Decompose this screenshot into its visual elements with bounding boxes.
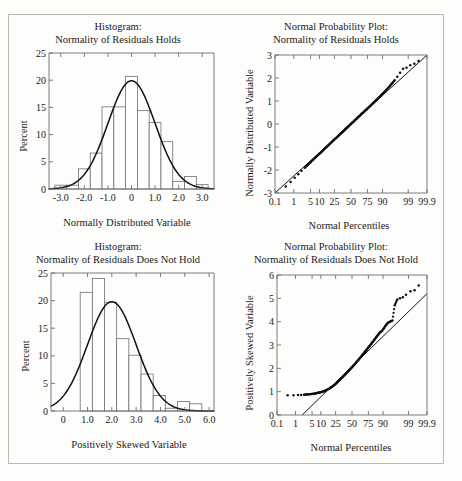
y-tick-label: -1 bbox=[264, 142, 272, 153]
y-tick-label: 0 bbox=[41, 184, 46, 195]
x-tick-label: 75 bbox=[363, 196, 373, 207]
x-tick-label: 90 bbox=[378, 418, 388, 429]
data-point bbox=[289, 181, 292, 184]
histogram-bar bbox=[185, 176, 197, 189]
y-axis-label: Positively Skewed Variable bbox=[244, 295, 255, 411]
data-point bbox=[392, 316, 394, 318]
x-tick-label: 1.0 bbox=[81, 414, 94, 425]
x-tick-label: 10 bbox=[316, 418, 326, 429]
histogram-bar bbox=[153, 396, 165, 411]
x-tick-label: 50 bbox=[346, 196, 356, 207]
y-axis-label: Percent bbox=[18, 120, 29, 152]
y-tick-label: 0 bbox=[43, 406, 48, 417]
histogram-bar bbox=[129, 355, 141, 411]
data-point bbox=[391, 320, 393, 322]
x-tick-label: 10 bbox=[314, 196, 324, 207]
y-tick-label: 20 bbox=[36, 75, 46, 86]
x-tick-label: 25 bbox=[331, 418, 341, 429]
data-point bbox=[286, 394, 289, 397]
x-tick-label: -3.0 bbox=[53, 192, 69, 203]
y-tick-label: 5 bbox=[43, 378, 48, 389]
data-point bbox=[285, 185, 288, 188]
x-tick-label: 99 bbox=[403, 196, 413, 207]
data-point bbox=[413, 62, 416, 65]
data-point bbox=[393, 308, 395, 310]
y-tick-label: 20 bbox=[38, 295, 48, 306]
y-tick-label: 1 bbox=[267, 96, 272, 107]
chart-qq-normal: 0.11510255075909999.9-3-2-10123 Normal P… bbox=[227, 21, 445, 237]
chart-hist-normal: -3.0-2.0-1.001.02.03.00510152025 Normall… bbox=[9, 21, 227, 237]
histogram-bar bbox=[92, 279, 104, 411]
y-tick-label: 25 bbox=[36, 48, 46, 59]
data-point bbox=[396, 76, 399, 79]
data-point bbox=[417, 284, 420, 287]
y-tick-label: 0 bbox=[269, 410, 274, 421]
data-point bbox=[297, 173, 300, 176]
x-tick-label: 5.0 bbox=[179, 414, 192, 425]
data-point bbox=[402, 68, 405, 71]
histogram-bar bbox=[141, 374, 153, 411]
data-point bbox=[417, 60, 420, 63]
x-tick-label: 1.0 bbox=[149, 192, 162, 203]
histogram-bar bbox=[114, 107, 126, 189]
y-axis-label: Percent bbox=[20, 340, 31, 372]
histogram-bar bbox=[80, 292, 92, 411]
x-axis-label: Normal Percentiles bbox=[311, 442, 392, 453]
y-tick-label: -3 bbox=[264, 188, 272, 199]
histogram-bar bbox=[126, 76, 138, 189]
x-tick-label: 50 bbox=[347, 418, 357, 429]
y-axis-label: Normally Distributed Variable bbox=[244, 69, 255, 197]
chart-hist-skewed: 01.02.03.04.05.06.00510152025 Positively… bbox=[9, 241, 227, 459]
data-point bbox=[409, 290, 412, 293]
x-tick-label: 3.0 bbox=[130, 414, 143, 425]
data-point bbox=[405, 294, 408, 297]
x-axis-label: Normally Distributed Variable bbox=[63, 217, 191, 228]
y-tick-label: 4 bbox=[269, 316, 274, 327]
x-tick-label: 99.9 bbox=[418, 418, 436, 429]
data-point bbox=[395, 300, 397, 302]
histogram-bar bbox=[161, 142, 173, 189]
data-point bbox=[399, 297, 402, 300]
x-tick-label: 5 bbox=[308, 196, 313, 207]
y-tick-label: -2 bbox=[264, 165, 272, 176]
panel-qq-normal: Normal Probability Plot: Normality of Re… bbox=[227, 21, 445, 237]
y-tick-label: 10 bbox=[36, 129, 46, 140]
x-tick-label: 0 bbox=[61, 414, 66, 425]
data-points bbox=[286, 284, 420, 396]
data-point bbox=[402, 296, 405, 299]
y-tick-label: 5 bbox=[41, 156, 46, 167]
y-tick-label: 1 bbox=[269, 386, 274, 397]
data-point bbox=[393, 80, 395, 82]
x-tick-label: 1 bbox=[291, 196, 296, 207]
y-tick-label: 2 bbox=[269, 363, 274, 374]
y-tick-label: 2 bbox=[267, 73, 272, 84]
histogram-bar bbox=[90, 153, 102, 189]
x-tick-label: 99 bbox=[403, 418, 413, 429]
y-tick-label: 15 bbox=[38, 323, 48, 334]
panel-hist-normal: Histogram: Normality of Residuals Holds … bbox=[9, 21, 227, 237]
x-tick-label: 2.0 bbox=[172, 192, 185, 203]
y-tick-label: 5 bbox=[269, 293, 274, 304]
data-point bbox=[413, 289, 416, 292]
data-point bbox=[392, 312, 394, 314]
y-tick-label: 3 bbox=[269, 340, 274, 351]
y-tick-label: 25 bbox=[38, 268, 48, 279]
axes: 0.11510255075909999.90123456 bbox=[269, 270, 436, 430]
data-point bbox=[409, 64, 412, 67]
panel-hist-skewed: Histogram: Normality of Residuals Does N… bbox=[9, 241, 227, 459]
reference-line bbox=[302, 294, 427, 415]
data-point bbox=[292, 394, 295, 397]
y-tick-label: 10 bbox=[38, 350, 48, 361]
y-tick-label: 15 bbox=[36, 102, 46, 113]
x-tick-label: 75 bbox=[363, 418, 373, 429]
x-tick-label: 3.0 bbox=[196, 192, 209, 203]
histogram-bars bbox=[55, 76, 208, 189]
x-tick-label: 5 bbox=[310, 418, 315, 429]
x-axis-label: Positively Skewed Variable bbox=[71, 439, 187, 450]
data-points bbox=[285, 60, 420, 188]
data-point bbox=[405, 66, 408, 69]
x-tick-label: 6.0 bbox=[203, 414, 216, 425]
histogram-bar bbox=[117, 339, 129, 411]
figure-frame: Histogram: Normality of Residuals Holds … bbox=[8, 14, 444, 464]
panel-qq-skewed: Normal Probability Plot: Normality of Re… bbox=[227, 241, 445, 459]
